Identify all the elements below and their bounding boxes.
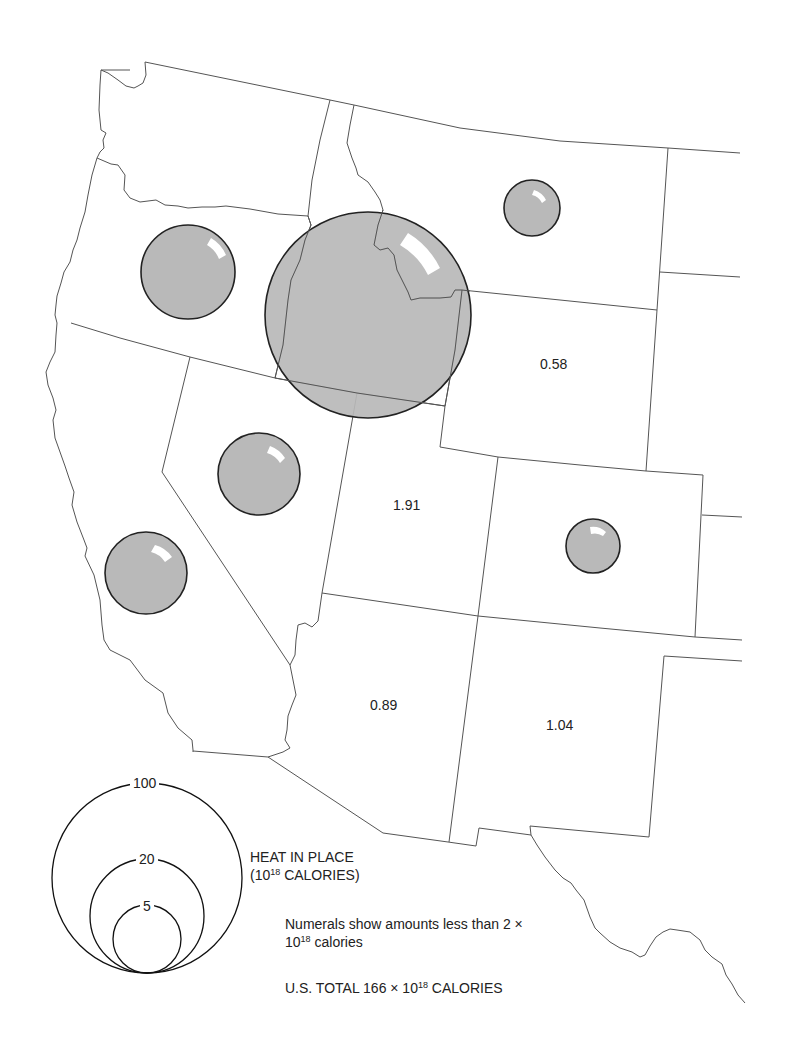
newmexico-mexico-border xyxy=(448,826,649,846)
wyoming-south-border xyxy=(440,447,703,475)
value-newmexico: 1.04 xyxy=(546,717,573,733)
legend-circle-20 xyxy=(90,859,204,973)
arizona-newmexico-border xyxy=(449,616,478,842)
rio-grande xyxy=(531,835,745,1003)
canada-border xyxy=(145,62,740,153)
arizona-mexico-border xyxy=(268,757,448,842)
dakotas-border xyxy=(660,272,740,277)
nebraska-kansas-border xyxy=(702,515,742,517)
western-us-map xyxy=(0,0,787,1040)
legend-label-5: 5 xyxy=(140,899,154,913)
us-total: U.S. TOTAL 166 × 1018 CALORIES xyxy=(285,979,503,997)
legend-circle-5 xyxy=(113,905,181,973)
value-wyoming: 0.58 xyxy=(540,356,567,372)
legend-title: HEAT IN PLACE (1018 CALORIES) xyxy=(250,848,360,884)
bubble-idaho xyxy=(265,210,471,418)
value-arizona: 0.89 xyxy=(370,697,397,713)
legend-title-line2: (1018 CALORIES) xyxy=(250,866,360,884)
value-utah: 1.91 xyxy=(393,497,420,513)
newmexico-texas-border xyxy=(649,656,664,837)
california-mexico-border xyxy=(193,751,268,757)
colorado-river-border xyxy=(268,665,296,757)
legend-note-line1: Numerals show amounts less than 2 × xyxy=(285,915,523,933)
bubble-colorado xyxy=(566,519,620,573)
bubble-oregon xyxy=(141,225,235,319)
bubble-california xyxy=(105,532,187,614)
legend-note: Numerals show amounts less than 2 × 1018… xyxy=(285,915,523,951)
legend-circles xyxy=(52,783,242,973)
bubble-nevada xyxy=(218,433,300,515)
oklahoma-panhandle-border xyxy=(664,656,742,661)
legend-note-line2: 1018 calories xyxy=(285,933,523,951)
four-corners-horizontal xyxy=(322,593,742,640)
legend-label-20: 20 xyxy=(136,852,158,866)
utah-colorado-border xyxy=(478,457,498,616)
legend-label-100: 100 xyxy=(130,776,159,790)
washington-outline xyxy=(97,62,308,216)
montana-wyoming-border xyxy=(462,290,657,310)
nevada-utah-border xyxy=(290,393,357,665)
bubble-montana xyxy=(504,180,560,236)
colorado-kansas-border xyxy=(695,475,703,637)
legend-title-line1: HEAT IN PLACE xyxy=(250,848,360,866)
legend-circle-100 xyxy=(52,783,242,973)
